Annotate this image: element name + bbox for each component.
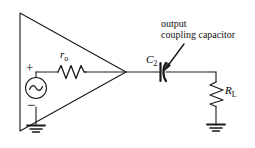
load-resistor-label-sub: L [232, 90, 237, 99]
coupling-capacitor-label: C2 [146, 54, 157, 69]
output-resistance-label: ro [60, 49, 68, 64]
wire-capacitor-to-load [166, 72, 216, 82]
load-resistor-label: RL [225, 85, 237, 100]
load-resistor-label-base: R [225, 84, 232, 96]
load-resistor-symbol [210, 82, 223, 107]
source-minus-sign: − [27, 97, 35, 113]
coupling-capacitor-symbol [161, 63, 167, 81]
coupling-capacitor-label-sub: 2 [153, 59, 157, 68]
circuit-diagram: output coupling capacitor ro C2 RL + − [0, 0, 255, 148]
ground-load [207, 107, 225, 132]
annotation-arrow [164, 44, 185, 72]
ac-voltage-source [26, 78, 47, 99]
annotation-line-2: coupling capacitor [161, 30, 235, 41]
output-resistance-symbol [58, 66, 86, 79]
wire-source-to-amplifier [36, 72, 126, 78]
output-resistance-label-sub: o [64, 54, 68, 63]
source-plus-sign: + [26, 61, 33, 75]
annotation-label: output coupling capacitor [161, 19, 235, 41]
